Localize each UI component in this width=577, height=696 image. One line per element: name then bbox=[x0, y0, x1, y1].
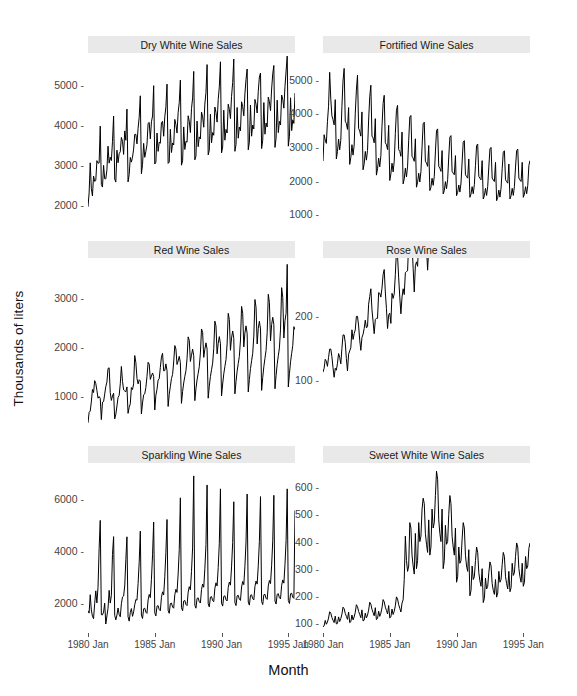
plot-area-sparkling bbox=[88, 463, 295, 631]
y-tick-mark: - bbox=[81, 341, 85, 353]
y-tick-sweet-white-600: 600- bbox=[271, 481, 319, 493]
x-tick-label-1990-jan: 1990 Jan bbox=[436, 639, 477, 650]
x-tick-label-1990-jan: 1990 Jan bbox=[201, 639, 242, 650]
y-tick-fortified-3000: 3000- bbox=[271, 141, 319, 153]
y-tick-mark: - bbox=[316, 563, 320, 575]
wine-sales-faceted-chart: Thousands of liters Month Dry White Wine… bbox=[0, 0, 577, 696]
plot-area-dry-white bbox=[88, 53, 295, 221]
y-tick-label: 2000 bbox=[54, 341, 77, 353]
y-tick-label: 2000 bbox=[289, 175, 312, 187]
panel-strip-sparkling: Sparkling Wine Sales bbox=[88, 446, 295, 463]
x-tick-mark bbox=[390, 633, 391, 637]
x-tick-mark bbox=[222, 633, 223, 637]
y-tick-mark: - bbox=[316, 74, 320, 86]
y-tick-mark: - bbox=[316, 481, 320, 493]
x-axis-title: Month bbox=[0, 662, 577, 678]
y-tick-fortified-4000: 4000- bbox=[271, 107, 319, 119]
x-tick-label-1980-jan: 1980 Jan bbox=[67, 639, 108, 650]
y-axis-title-text: Thousands of liters bbox=[12, 290, 27, 406]
panel-title-dry-white: Dry White Wine Sales bbox=[140, 39, 242, 51]
y-tick-mark: - bbox=[81, 545, 85, 557]
panel-red: Red Wine Sales bbox=[88, 241, 295, 426]
y-tick-red-3000: 3000- bbox=[36, 292, 84, 304]
y-tick-label: 4000 bbox=[54, 119, 77, 131]
y-tick-label: 2000 bbox=[54, 597, 77, 609]
y-tick-fortified-2000: 2000- bbox=[271, 175, 319, 187]
panel-dry-white: Dry White Wine Sales bbox=[88, 36, 295, 221]
y-tick-mark: - bbox=[81, 159, 85, 171]
x-tick-mark bbox=[523, 633, 524, 637]
panel-strip-sweet-white: Sweet White Wine Sales bbox=[323, 446, 530, 463]
y-tick-sparkling-6000: 6000- bbox=[36, 493, 84, 505]
y-tick-label: 3000 bbox=[289, 141, 312, 153]
y-tick-mark: - bbox=[316, 208, 320, 220]
y-tick-label: 400 bbox=[295, 536, 313, 548]
y-tick-label: 200 bbox=[295, 310, 313, 322]
y-tick-mark: - bbox=[316, 107, 320, 119]
y-tick-mark: - bbox=[316, 310, 320, 322]
y-tick-fortified-1000: 1000- bbox=[271, 208, 319, 220]
y-tick-label: 200 bbox=[295, 590, 313, 602]
panel-rose: Rose Wine Sales bbox=[323, 241, 530, 426]
y-tick-dry-white-2000: 2000- bbox=[36, 199, 84, 211]
panel-title-sweet-white: Sweet White Wine Sales bbox=[369, 449, 484, 461]
y-tick-mark: - bbox=[81, 493, 85, 505]
panel-fortified: Fortified Wine Sales bbox=[323, 36, 530, 221]
y-tick-label: 1000 bbox=[54, 390, 77, 402]
y-tick-mark: - bbox=[81, 119, 85, 131]
y-tick-sparkling-2000: 2000- bbox=[36, 597, 84, 609]
y-tick-mark: - bbox=[81, 597, 85, 609]
series-line-sweet-white bbox=[323, 471, 530, 627]
y-tick-red-2000: 2000- bbox=[36, 341, 84, 353]
y-tick-label: 5000 bbox=[54, 79, 77, 91]
y-tick-label: 300 bbox=[295, 563, 313, 575]
panel-strip-rose: Rose Wine Sales bbox=[323, 241, 530, 258]
y-tick-label: 600 bbox=[295, 481, 313, 493]
y-tick-dry-white-4000: 4000- bbox=[36, 119, 84, 131]
y-tick-mark: - bbox=[316, 508, 320, 520]
y-tick-label: 3000 bbox=[54, 159, 77, 171]
y-tick-sweet-white-100: 100- bbox=[271, 617, 319, 629]
y-tick-label: 4000 bbox=[289, 107, 312, 119]
x-axis-ticks-col1: 1980 Jan1985 Jan1990 Jan1995 Jan bbox=[323, 633, 530, 655]
y-tick-dry-white-5000: 5000- bbox=[36, 79, 84, 91]
y-tick-mark: - bbox=[316, 536, 320, 548]
y-tick-label: 1000 bbox=[289, 208, 312, 220]
x-tick-mark bbox=[323, 633, 324, 637]
panel-sparkling: Sparkling Wine Sales bbox=[88, 446, 295, 631]
x-tick-mark bbox=[88, 633, 89, 637]
y-tick-sweet-white-300: 300- bbox=[271, 563, 319, 575]
y-tick-fortified-5000: 5000- bbox=[271, 74, 319, 86]
x-tick-mark bbox=[457, 633, 458, 637]
y-tick-label: 100 bbox=[295, 374, 313, 386]
plot-area-sweet-white bbox=[323, 463, 530, 631]
y-tick-label: 500 bbox=[295, 508, 313, 520]
y-tick-mark: - bbox=[316, 175, 320, 187]
y-tick-mark: - bbox=[81, 292, 85, 304]
y-tick-label: 5000 bbox=[289, 74, 312, 86]
panel-strip-fortified: Fortified Wine Sales bbox=[323, 36, 530, 53]
x-tick-mark bbox=[155, 633, 156, 637]
y-tick-mark: - bbox=[81, 79, 85, 91]
y-tick-label: 2000 bbox=[54, 199, 77, 211]
y-tick-dry-white-3000: 3000- bbox=[36, 159, 84, 171]
panel-title-red: Red Wine Sales bbox=[154, 244, 229, 256]
y-tick-mark: - bbox=[81, 199, 85, 211]
series-line-red bbox=[88, 264, 295, 422]
y-tick-sweet-white-400: 400- bbox=[271, 536, 319, 548]
plot-area-red bbox=[88, 258, 295, 426]
series-line-sparkling bbox=[88, 476, 295, 624]
y-tick-mark: - bbox=[81, 390, 85, 402]
panel-title-fortified: Fortified Wine Sales bbox=[380, 39, 474, 51]
x-axis-ticks-col0: 1980 Jan1985 Jan1990 Jan1995 Jan bbox=[88, 633, 295, 655]
y-tick-sweet-white-500: 500- bbox=[271, 508, 319, 520]
y-tick-red-1000: 1000- bbox=[36, 390, 84, 402]
x-tick-label-1980-jan: 1980 Jan bbox=[302, 639, 343, 650]
y-tick-mark: - bbox=[316, 617, 320, 629]
y-axis-title: Thousands of liters bbox=[8, 0, 30, 696]
x-tick-mark bbox=[288, 633, 289, 637]
y-tick-mark: - bbox=[316, 141, 320, 153]
x-axis-title-text: Month bbox=[268, 662, 308, 678]
y-tick-sweet-white-200: 200- bbox=[271, 590, 319, 602]
y-tick-label: 100 bbox=[295, 617, 313, 629]
